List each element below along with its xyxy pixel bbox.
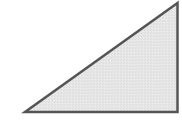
right-triangle-shape	[25, 3, 178, 112]
triangle-figure	[0, 0, 182, 121]
diagram-canvas	[0, 0, 182, 121]
